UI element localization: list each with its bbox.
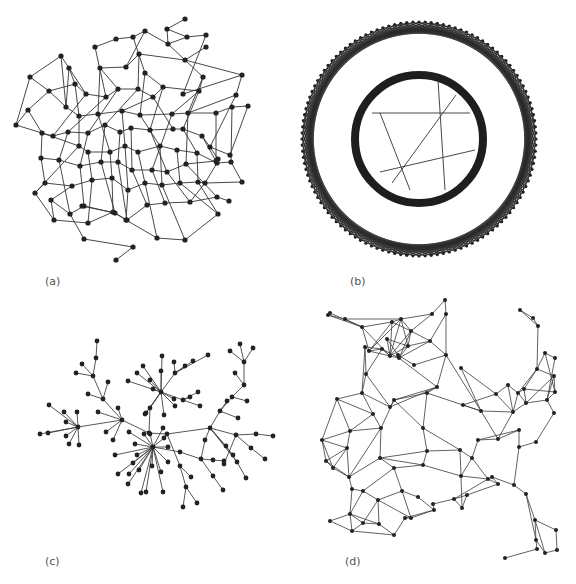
graph-node xyxy=(399,253,402,256)
graph-node xyxy=(139,491,144,496)
graph-node xyxy=(345,446,349,450)
graph-node xyxy=(512,483,516,487)
graph-node xyxy=(399,22,402,25)
graph-node xyxy=(430,254,433,257)
graph-b-canvas xyxy=(288,0,576,292)
graph-edge xyxy=(244,348,253,362)
graph-edge xyxy=(505,549,537,558)
graph-edge xyxy=(205,182,242,183)
graph-edge xyxy=(423,451,427,465)
graph-edge xyxy=(128,183,145,190)
graph-edge xyxy=(352,523,363,531)
graph-node xyxy=(103,94,108,99)
graph-edge xyxy=(411,331,430,341)
graph-node xyxy=(430,21,433,24)
graph-node xyxy=(534,137,537,140)
graph-c-canvas xyxy=(0,292,288,584)
graph-node xyxy=(27,74,32,79)
graph-edge xyxy=(153,447,163,492)
graph-node xyxy=(125,187,130,192)
graph-node xyxy=(51,217,56,222)
graph-node xyxy=(135,371,140,376)
graph-node xyxy=(226,198,231,203)
graph-node xyxy=(425,449,429,453)
graph-node xyxy=(417,20,420,23)
graph-edge xyxy=(423,428,460,450)
graph-node xyxy=(476,36,479,39)
graph-node xyxy=(508,64,511,67)
graph-edge xyxy=(236,435,251,448)
graph-edge xyxy=(157,238,185,240)
graph-edge xyxy=(467,484,498,495)
graph-node xyxy=(306,174,309,177)
graph-a-canvas xyxy=(0,0,288,292)
graph-node xyxy=(533,518,537,522)
graph-edge xyxy=(481,411,498,439)
graph-node xyxy=(242,360,247,365)
graph-node xyxy=(98,159,103,164)
graph-edge xyxy=(365,347,366,374)
graph-node xyxy=(524,492,528,496)
graph-edge xyxy=(80,166,84,206)
graph-node xyxy=(324,459,328,463)
graph-edge xyxy=(220,411,238,418)
graph-node xyxy=(211,474,216,479)
graph-edge xyxy=(524,369,537,389)
graph-node xyxy=(109,175,114,180)
graph-node xyxy=(80,362,85,367)
graph-node xyxy=(244,476,249,481)
graph-node xyxy=(301,125,304,128)
graph-node xyxy=(95,111,100,116)
graph-edge xyxy=(167,29,187,37)
graph-node xyxy=(161,490,166,495)
panel-label-d: (d) xyxy=(345,555,361,568)
graph-node xyxy=(496,482,500,486)
graph-edge xyxy=(122,97,153,111)
graph-node xyxy=(130,34,135,39)
graph-node xyxy=(76,143,81,148)
graph-node xyxy=(184,485,189,490)
graph-node xyxy=(137,468,142,473)
graph-node xyxy=(239,72,244,77)
graph-edge xyxy=(460,450,461,476)
graph-node xyxy=(335,397,339,401)
graph-node xyxy=(166,445,171,450)
graph-node xyxy=(85,130,90,135)
graph-node xyxy=(172,360,177,365)
graph-edge xyxy=(330,521,352,531)
graph-edge xyxy=(231,162,242,182)
graph-edge xyxy=(210,411,220,428)
graph-node xyxy=(517,445,521,449)
graph-edge xyxy=(93,376,103,399)
graph-node xyxy=(344,228,347,231)
graph-edge xyxy=(330,514,350,521)
graph-node xyxy=(86,392,91,397)
graph-node xyxy=(218,409,223,414)
graph-edge xyxy=(462,495,467,508)
graph-node xyxy=(42,180,47,185)
graph-edge xyxy=(535,520,556,530)
graph-node xyxy=(459,28,462,31)
graph-edge xyxy=(413,22,502,56)
graph-edge xyxy=(49,84,75,91)
graph-node xyxy=(349,232,352,235)
graph-edge xyxy=(93,358,96,376)
graph-node xyxy=(38,155,43,160)
graph-node xyxy=(400,489,404,493)
graph-node xyxy=(442,252,445,255)
graph-node xyxy=(222,462,227,467)
graph-node xyxy=(58,53,63,58)
graph-node xyxy=(239,179,244,184)
graph-node xyxy=(245,399,250,404)
graph-node xyxy=(311,90,314,93)
graph-node xyxy=(425,391,429,395)
graph-node xyxy=(142,70,147,75)
graph-node xyxy=(141,364,146,369)
graph-node xyxy=(316,196,319,199)
graph-edge xyxy=(526,494,536,540)
graph-node xyxy=(144,202,149,207)
graph-edge xyxy=(126,190,128,220)
graph-node xyxy=(229,104,234,109)
graph-node xyxy=(251,346,256,351)
graph-node xyxy=(81,236,86,241)
